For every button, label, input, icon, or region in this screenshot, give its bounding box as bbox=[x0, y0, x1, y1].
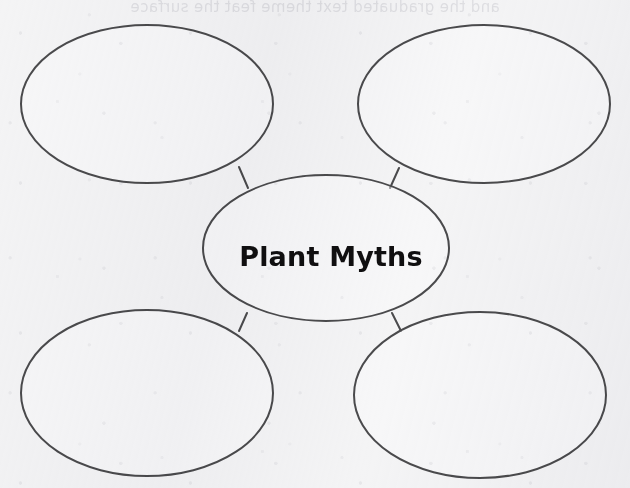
bubble-bottom-right[interactable] bbox=[354, 312, 606, 478]
center-topic-label: Plant Myths bbox=[239, 241, 423, 272]
connector-top-left-line bbox=[239, 167, 248, 188]
concept-web-diagram: Plant Myths bbox=[0, 0, 630, 488]
bubble-top-right[interactable] bbox=[358, 25, 610, 183]
bubble-bottom-left[interactable] bbox=[21, 310, 273, 476]
connector-bottom-right-line bbox=[392, 313, 401, 331]
connector-top-right-line bbox=[390, 168, 399, 188]
bubble-top-left[interactable] bbox=[21, 25, 273, 183]
connector-bottom-left-line bbox=[239, 313, 247, 331]
worksheet-page: and the graduated text theme feat the su… bbox=[0, 0, 630, 488]
